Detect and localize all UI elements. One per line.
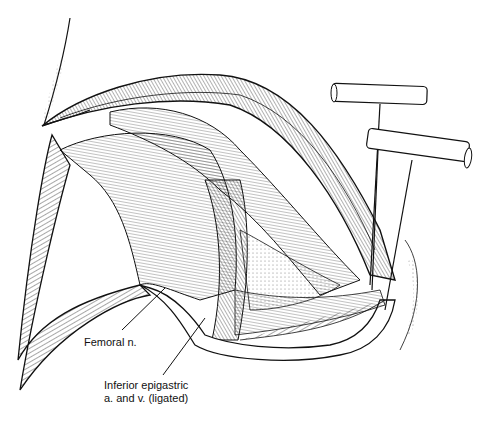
retractor-lower (366, 128, 473, 310)
anatomical-illustration (0, 0, 486, 443)
inferior-epigastric-label-line1: Inferior epigastric (104, 379, 188, 392)
inferior-epigastric-label-line2: a. and v. (ligated) (104, 392, 188, 405)
muscle-field (60, 133, 236, 300)
femoral-nerve-label: Femoral n. (84, 336, 137, 349)
